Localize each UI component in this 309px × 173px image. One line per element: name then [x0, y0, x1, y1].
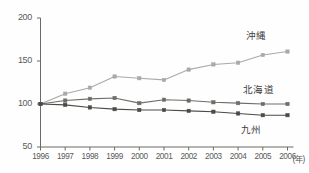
x-tick-label: 2004	[225, 152, 251, 161]
y-tick-label: 200	[6, 12, 32, 22]
x-tick-label: 1998	[77, 152, 103, 161]
series-label-1: 北海道	[243, 82, 274, 96]
x-tick-label: 1996	[28, 152, 54, 161]
x-tick-label: 2002	[176, 152, 202, 161]
series-2	[39, 102, 289, 117]
series-label-0: 沖縄	[246, 28, 267, 42]
y-tick-label: 50	[6, 141, 32, 151]
x-tick-label: 2001	[151, 152, 177, 161]
x-tick-label: 2005	[250, 152, 276, 161]
y-tick-label: 100	[6, 98, 32, 108]
x-tick-label: 2003	[200, 152, 226, 161]
series-label-2: 九州	[241, 122, 262, 136]
x-axis-unit-label: (年)	[293, 152, 305, 164]
x-tick-label: 2000	[126, 152, 152, 161]
x-tick-label: 1997	[52, 152, 78, 161]
series-1	[39, 96, 289, 105]
series-0	[39, 50, 289, 106]
x-tick-label: 1999	[102, 152, 128, 161]
y-tick-label: 150	[6, 55, 32, 65]
line-chart: 50100150200 1996199719981999200020012002…	[0, 0, 309, 173]
